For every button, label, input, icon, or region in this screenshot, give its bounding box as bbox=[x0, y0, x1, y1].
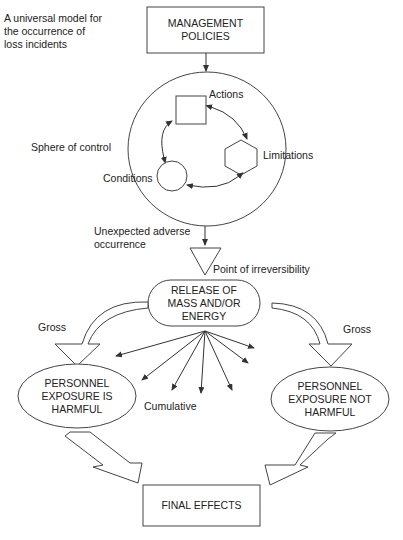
irreversibility-label: Point of irreversibility bbox=[213, 263, 310, 276]
exposure-not-harmful-label: PERSONNEL EXPOSURE NOT HARMFUL bbox=[271, 367, 389, 431]
conditions-circle-icon bbox=[157, 161, 187, 191]
conditions-label: Conditions bbox=[103, 172, 153, 185]
actions-label: Actions bbox=[209, 88, 243, 101]
cumulative-fan-arrows bbox=[116, 331, 254, 393]
limitations-label: Limitations bbox=[263, 149, 313, 162]
diagram-canvas bbox=[0, 0, 403, 540]
final-effects-label: FINAL EFFECTS bbox=[143, 485, 260, 526]
unexpected-line-2: occurrence bbox=[94, 238, 190, 251]
limitations-conditions-arrow bbox=[187, 176, 239, 187]
harmful-to-final-block-arrow bbox=[65, 432, 142, 483]
management-line-1: MANAGEMENT bbox=[168, 17, 243, 30]
title-line-2: the occurrence of bbox=[4, 25, 102, 38]
harmful-line-3: HARMFUL bbox=[41, 403, 112, 416]
management-line-2: POLICIES bbox=[168, 30, 243, 43]
sphere-of-control-label: Sphere of control bbox=[31, 141, 111, 154]
gross-right-label: Gross bbox=[343, 323, 371, 336]
release-line-3: ENERGY bbox=[168, 310, 241, 323]
exposure-harmful-label: PERSONNEL EXPOSURE IS HARMFUL bbox=[18, 364, 136, 428]
title-line-1: A universal model for bbox=[4, 12, 102, 25]
unexpected-adverse-label: Unexpected adverse occurrence bbox=[94, 225, 190, 251]
release-line-2: MASS AND/OR bbox=[168, 297, 241, 310]
gross-right-block-arrow bbox=[272, 303, 352, 366]
gross-left-block-arrow bbox=[55, 302, 148, 366]
harmful-line-2: EXPOSURE IS bbox=[41, 390, 112, 403]
release-label: RELEASE OF MASS AND/OR ENERGY bbox=[148, 280, 260, 326]
harmful-line-1: PERSONNEL bbox=[41, 377, 112, 390]
unexpected-line-1: Unexpected adverse bbox=[94, 225, 190, 238]
conditions-actions-arrow bbox=[162, 121, 172, 158]
not-harmful-line-2: EXPOSURE NOT bbox=[288, 393, 371, 406]
gross-left-label: Gross bbox=[38, 321, 66, 334]
limitations-hexagon-icon bbox=[225, 140, 257, 175]
actions-square-icon bbox=[176, 96, 206, 124]
not-harmful-to-final-block-arrow bbox=[265, 433, 336, 485]
release-line-1: RELEASE OF bbox=[168, 284, 241, 297]
not-harmful-line-3: HARMFUL bbox=[288, 406, 371, 419]
cumulative-label: Cumulative bbox=[144, 400, 197, 413]
diagram-title: A universal model for the occurrence of … bbox=[4, 12, 102, 51]
management-policies-label: MANAGEMENT POLICIES bbox=[147, 7, 264, 53]
actions-limitations-arrow bbox=[211, 107, 247, 139]
not-harmful-line-1: PERSONNEL bbox=[288, 380, 371, 393]
title-line-3: loss incidents bbox=[4, 38, 102, 51]
